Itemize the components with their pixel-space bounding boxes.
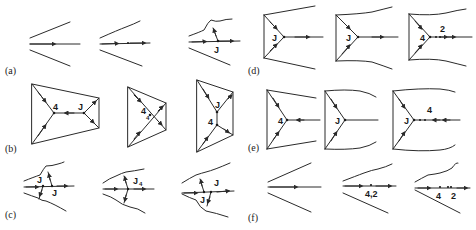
panel-f: (f) 4,2 4 2: [248, 163, 470, 224]
node-label-4: 4: [53, 102, 58, 112]
panel-b-frame-3: J 4: [197, 80, 233, 152]
flow-arrow: [342, 21, 349, 28]
node-label-4-2: 4,2: [365, 189, 378, 199]
node-label-J: J: [272, 33, 277, 43]
flow-arrow: [125, 178, 126, 183]
panel-label-a: (a): [5, 65, 16, 77]
flow-arrow: [88, 117, 93, 122]
flow-arrow: [102, 44, 117, 45]
node-dot: [53, 112, 56, 115]
panel-a-frame-1: [30, 22, 80, 66]
panel-e-frame-1: 4: [267, 90, 320, 149]
panel-f-frame-3: 4 2: [415, 163, 470, 213]
upper-wall: [325, 90, 376, 97]
flow-arrow: [38, 126, 45, 136]
figure-canvas: (a) J (b): [0, 0, 476, 230]
upper-wall: [415, 163, 458, 182]
upper-wall: [189, 19, 232, 36]
node-dot: [439, 36, 441, 38]
panel-c: (c) J J J 4: [5, 162, 234, 221]
lower-wall: [409, 59, 466, 66]
node-dot: [447, 186, 449, 188]
node-dot: [42, 185, 44, 187]
node-dot: [424, 119, 426, 121]
lower-wall: [393, 145, 455, 151]
node-dot: [419, 119, 421, 121]
flow-arrow: [273, 133, 278, 140]
upper-wall: [343, 164, 392, 181]
panel-a: (a) J: [5, 19, 240, 77]
node-label-J: J: [78, 102, 83, 112]
node-label-4: 4: [420, 33, 425, 43]
flow-arrow: [415, 46, 421, 53]
node-label-J: J: [200, 195, 205, 205]
panel-d-frame-3: 4 2: [409, 9, 472, 66]
boundary-quad: [32, 84, 99, 144]
panel-label-b: (b): [5, 143, 17, 155]
flow-arrow: [134, 133, 139, 139]
panel-d: (d) J J: [248, 6, 472, 77]
panel-b-frame-1: 4 J: [32, 84, 99, 144]
boundary-quad: [197, 80, 233, 152]
lower-wall: [268, 193, 311, 212]
node-dot: [286, 119, 289, 122]
flow-arrow: [90, 102, 95, 107]
flow-arrow: [415, 21, 421, 28]
flow-arrow: [203, 138, 207, 144]
lower-wall: [264, 58, 315, 69]
node-dot: [127, 188, 129, 190]
flow-arrow: [331, 99, 336, 107]
node-dot: [450, 186, 452, 188]
node-dot: [413, 119, 416, 122]
node-label-J: J: [214, 45, 219, 55]
panel-a-frame-2: [100, 21, 150, 66]
flow-arrow: [125, 195, 126, 200]
node-dot: [203, 191, 205, 193]
node-dot: [210, 191, 212, 193]
lower-wall: [30, 50, 70, 66]
node-label-2: 2: [451, 191, 456, 201]
panel-e-frame-3: J 4: [393, 89, 460, 151]
panel-c-frame-3: J J: [182, 163, 234, 217]
edge: [128, 103, 166, 147]
node-dot: [357, 36, 360, 39]
flow-arrow: [40, 190, 42, 195]
upper-wall: [268, 163, 311, 182]
panel-f-frame-2: 4,2: [343, 164, 396, 213]
node-label-4: 4: [208, 117, 213, 127]
panel-label-f: (f): [248, 212, 258, 224]
upper-wall: [30, 22, 70, 38]
flow-arrow: [399, 133, 404, 141]
flow-arrow: [270, 22, 276, 28]
flow-arrow: [201, 181, 202, 186]
node-dot: [283, 36, 286, 39]
lower-wall: [267, 141, 316, 149]
upper-wall: [264, 6, 315, 15]
flow-arrow: [214, 30, 216, 36]
node-dot: [51, 185, 53, 187]
node-dot: [429, 36, 432, 39]
flow-arrow: [38, 92, 45, 101]
node-label-4-sub: 4: [139, 181, 143, 187]
upper-wall: [24, 162, 64, 181]
lower-wall: [24, 193, 66, 211]
node-label-J: J: [404, 116, 409, 126]
upper-wall: [182, 163, 230, 183]
flow-arrow: [134, 95, 140, 101]
flow-arrow: [270, 45, 276, 51]
node-dot: [83, 112, 86, 115]
flow-arrow: [49, 175, 50, 180]
flow-arrow: [157, 120, 161, 124]
panel-b-frame-2: 4 4: [128, 87, 166, 147]
flow-arrow: [331, 133, 336, 141]
flow-arrow: [203, 89, 208, 97]
node-label-4: 4: [427, 105, 432, 115]
node-label-4: 4: [436, 191, 441, 201]
lower-wall: [189, 48, 230, 65]
panel-e-frame-2: J: [325, 90, 378, 149]
node-dot: [435, 36, 437, 38]
panel-e: (e) 4 J: [248, 89, 460, 154]
flow-arrow: [273, 98, 278, 106]
node-dot: [370, 184, 372, 186]
upper-wall: [336, 7, 392, 15]
